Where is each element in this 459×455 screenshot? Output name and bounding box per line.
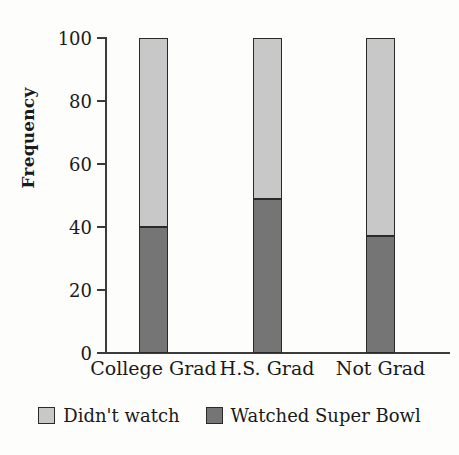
bar-segment-watched-super-bowl (366, 236, 395, 353)
bar-segment-watched-super-bowl (139, 227, 168, 353)
legend-entry[interactable]: Didn't watch (38, 405, 179, 426)
dark-gray-swatch-icon (206, 407, 223, 424)
y-axis-title: Frequency (10, 68, 46, 208)
y-axis-tick-label: 20 (40, 280, 92, 301)
bar-not-grad (366, 38, 395, 353)
stacked-bar-chart: Frequency 020406080100 College GradH.S. … (0, 0, 459, 455)
bar-college-grad (139, 38, 168, 353)
bar-segment-didnt-watch (139, 38, 168, 227)
bar-h-s-grad (253, 38, 282, 353)
legend-entry[interactable]: Watched Super Bowl (206, 405, 421, 426)
bar-segment-didnt-watch (366, 38, 395, 236)
y-axis-tick-label: 60 (40, 154, 92, 175)
legend-entry-label: Watched Super Bowl (231, 405, 421, 426)
x-axis-label-not-grad: Not Grad (301, 357, 459, 379)
y-axis-tick-label: 100 (40, 28, 92, 49)
bar-segment-watched-super-bowl (253, 199, 282, 353)
light-gray-swatch-icon (38, 407, 55, 424)
bar-segment-didnt-watch (253, 38, 282, 199)
plot-area (105, 38, 450, 353)
y-axis-tick-label: 40 (40, 217, 92, 238)
y-axis-tick-label: 80 (40, 91, 92, 112)
chart-legend: Didn't watchWatched Super Bowl (0, 405, 459, 426)
legend-entry-label: Didn't watch (63, 405, 179, 426)
